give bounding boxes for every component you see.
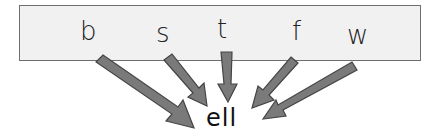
- arrow-icon: [164, 54, 207, 106]
- arrow-icon: [263, 62, 357, 119]
- arrow-icon: [218, 52, 237, 102]
- rime-ell: ell: [206, 104, 237, 132]
